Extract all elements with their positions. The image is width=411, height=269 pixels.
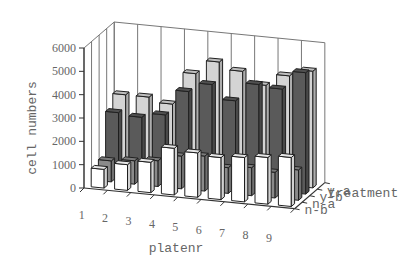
bar: [138, 158, 154, 192]
bar: [278, 153, 294, 206]
x-tick-label: 1: [79, 208, 85, 222]
y-tick-label: 5000: [52, 64, 76, 78]
bar: [161, 144, 177, 195]
bar: [185, 149, 201, 197]
y-tick-label: 2000: [52, 134, 76, 148]
bar: [115, 161, 131, 191]
bar: [255, 154, 271, 205]
x-axis-label: platenr: [149, 241, 204, 256]
x-tick-label: 2: [102, 211, 108, 225]
y-tick-label: 6000: [52, 41, 76, 55]
y-tick-label: 0: [70, 181, 76, 195]
x-tick-label: 8: [243, 228, 249, 242]
x-tick-label: 7: [219, 226, 225, 240]
x-tick-label: 5: [172, 220, 178, 234]
y-tick-label: 3000: [52, 111, 76, 125]
y-axis-label: cell numbers: [25, 81, 40, 175]
3d-bar-chart: 0100020003000400050006000123456789n-bn-a…: [0, 0, 411, 269]
bars: [91, 58, 316, 207]
bar: [208, 154, 224, 200]
y-tick-label: 1000: [52, 158, 76, 172]
x-tick-label: 9: [266, 231, 272, 245]
x-tick-label: 3: [126, 214, 132, 228]
y-tick-label: 4000: [52, 88, 76, 102]
x-tick-label: 4: [149, 217, 155, 231]
bar: [232, 154, 248, 202]
z-axis-label: treatment: [328, 186, 398, 201]
x-tick-label: 6: [196, 223, 202, 237]
bar: [91, 165, 107, 188]
